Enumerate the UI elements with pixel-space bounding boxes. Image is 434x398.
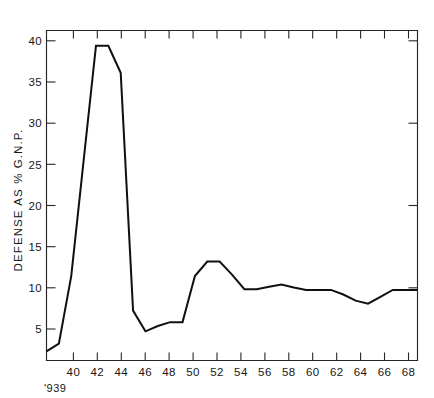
- y-tick-label-15: 15: [28, 241, 42, 253]
- x-axis-tick-marks: [73, 353, 408, 361]
- x-tick-label-60: 60: [306, 366, 320, 378]
- chart-canvas: 5 10 15 20 25 30 35 40: [0, 0, 434, 398]
- x-tick-label-52: 52: [210, 366, 224, 378]
- x-tick-label-54: 54: [234, 366, 248, 378]
- x-tick-label-56: 56: [258, 366, 272, 378]
- y-tick-label-30: 30: [28, 117, 42, 129]
- plot-frame: [47, 31, 418, 361]
- x-tick-label-68: 68: [402, 366, 416, 378]
- y-axis-tick-labels: 5 10 15 20 25 30 35 40: [28, 35, 42, 335]
- x-tick-label-62: 62: [330, 366, 344, 378]
- y-axis-right-tick-marks: [409, 41, 418, 288]
- x-tick-label-40: 40: [67, 366, 81, 378]
- y-tick-label-5: 5: [35, 323, 42, 335]
- y-tick-label-40: 40: [28, 35, 42, 47]
- x-tick-label-46: 46: [138, 366, 152, 378]
- plot-border: [47, 31, 418, 361]
- y-tick-label-10: 10: [28, 282, 42, 294]
- x-tick-label-64: 64: [354, 366, 368, 378]
- defense-gnp-series-line: [47, 46, 418, 351]
- x-tick-label-48: 48: [162, 366, 176, 378]
- x-tick-label-50: 50: [186, 366, 200, 378]
- x-axis-tick-labels: 40 42 44 46 48 50 52 54 56 58 60 62 64 6…: [67, 366, 416, 378]
- y-axis-tick-marks: [47, 41, 56, 329]
- origin-year-label: '939: [44, 382, 66, 394]
- y-tick-label-25: 25: [28, 159, 42, 171]
- x-tick-label-42: 42: [91, 366, 105, 378]
- x-tick-label-44: 44: [115, 366, 129, 378]
- y-tick-label-20: 20: [28, 200, 42, 212]
- x-tick-label-58: 58: [282, 366, 296, 378]
- x-tick-label-66: 66: [378, 366, 392, 378]
- x-axis-top-tick-marks: [73, 31, 408, 39]
- defense-gnp-chart-figure: 5 10 15 20 25 30 35 40: [0, 0, 434, 398]
- y-tick-label-35: 35: [28, 76, 42, 88]
- y-axis-title: DEFENSE AS % G.N.P.: [12, 129, 24, 272]
